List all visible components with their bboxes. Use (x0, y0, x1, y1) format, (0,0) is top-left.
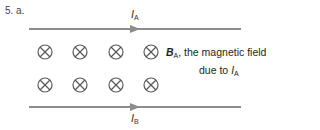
arrow-right-icon (130, 103, 140, 111)
wire-top (29, 25, 241, 33)
cross-circle-icon (109, 78, 123, 92)
due-to-text: due to (199, 64, 231, 76)
current-subscript: A (134, 14, 139, 21)
field-description: , the magnetic field (178, 46, 266, 58)
current-subscript: B (134, 118, 139, 125)
field-description-line2: due to IA (166, 63, 276, 81)
cross-circle-icon (144, 78, 158, 92)
cross-circle-icon (109, 45, 123, 59)
current-label-top: IA (131, 8, 139, 21)
field-symbol: B (166, 46, 174, 58)
current-label-bottom: IB (131, 112, 139, 125)
arrow-right-icon (130, 25, 140, 33)
cross-circle-icon (38, 78, 52, 92)
field-annotation: BA, the magnetic field due to IA (166, 45, 276, 81)
cross-circle-icon (73, 78, 87, 92)
wire-bottom (29, 103, 241, 111)
current-subscript: A (234, 70, 239, 77)
cross-circle-icon (38, 45, 52, 59)
cross-circle-icon (73, 45, 87, 59)
field-markers (38, 45, 158, 92)
cross-circle-icon (144, 45, 158, 59)
